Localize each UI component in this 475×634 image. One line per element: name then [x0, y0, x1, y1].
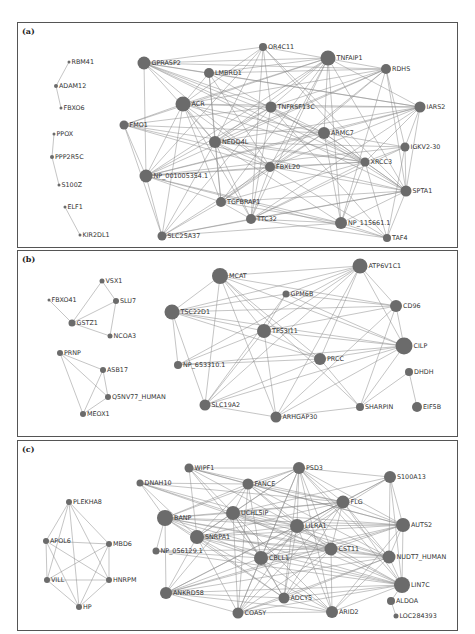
- node-label: FBXL20: [276, 163, 300, 171]
- node-circle: [415, 102, 426, 113]
- node-circle: [293, 462, 305, 474]
- node-np-001005354-1: NP_001005354.1: [140, 170, 209, 183]
- node-label: SLC25A37: [168, 232, 201, 240]
- edge: [146, 176, 387, 238]
- edges: [49, 266, 417, 417]
- node-circle: [165, 305, 180, 320]
- node-circle: [246, 214, 256, 224]
- node-label: S100A13: [397, 473, 426, 481]
- node-label: FBXO6: [64, 104, 85, 112]
- node-circle: [259, 43, 267, 51]
- node-spta1: SPTA1: [401, 186, 433, 197]
- node-label: SLC19A2: [212, 401, 241, 409]
- node-label: SHARPIN: [365, 403, 393, 411]
- node-uchl5ip: UCHL5IP: [226, 506, 268, 520]
- node-label: S100Z: [62, 181, 83, 189]
- node-circle: [100, 279, 105, 284]
- node-circle: [64, 206, 67, 209]
- node-label: ANKRD58: [173, 589, 204, 597]
- node-ppp2r5c: PPP2R5C: [50, 153, 84, 161]
- node-label: IGKV2-30: [411, 143, 441, 151]
- node-label: GPM6B: [291, 290, 314, 298]
- node-circle: [200, 400, 211, 411]
- node-circle: [314, 353, 326, 365]
- node-circle: [233, 608, 244, 619]
- node-flg: FLG: [337, 496, 363, 509]
- node-eif5b: EIF5B: [412, 402, 441, 412]
- node-adam12: ADAM12: [54, 82, 86, 90]
- node-psd3: PSD3: [293, 462, 323, 474]
- panel-b: (b)VSX1FBXO41SLU7GSTZ1NCOA3PRNPASB17Q5NV…: [17, 250, 458, 437]
- edge: [52, 134, 54, 157]
- node-label: NUDT7_HUMAN: [397, 553, 447, 561]
- node-gstz1: GSTZ1: [69, 319, 98, 327]
- node-label: CBLL1: [269, 554, 289, 562]
- node-nedd4l: NEDD4L: [209, 136, 249, 148]
- node-circle: [394, 614, 399, 619]
- node-mcat: MCAT: [212, 268, 247, 284]
- node-label: TGFBRAP1: [226, 198, 260, 206]
- node-label: EIF5B: [423, 403, 441, 411]
- node-circle: [140, 170, 153, 183]
- node-circle: [335, 217, 347, 229]
- edge: [320, 359, 360, 407]
- node-circle: [176, 97, 191, 112]
- node-label: HP: [83, 603, 92, 611]
- node-loc284393: LOC284393: [394, 612, 437, 620]
- node-circle: [113, 298, 119, 304]
- edge: [221, 167, 270, 202]
- node-circle: [279, 593, 290, 604]
- node-circle: [387, 597, 395, 605]
- node-label: FBXO41: [52, 296, 77, 304]
- node-label: ADAM12: [59, 82, 86, 90]
- node-circle: [321, 51, 336, 66]
- node-circle: [361, 158, 370, 167]
- node-label: COASY: [245, 609, 267, 617]
- edge: [386, 69, 405, 147]
- node-label: DHDH: [414, 368, 434, 376]
- node-atp6v1c1: ATP6V1C1: [353, 259, 402, 274]
- node-lmbrd1: LMBRD1: [204, 68, 242, 78]
- node-label: VILL: [51, 576, 65, 584]
- node-label: TSC22D1: [180, 308, 211, 316]
- node-circle: [271, 412, 282, 423]
- node-prnp: PRNP: [57, 349, 81, 357]
- node-dhdh: DHDH: [405, 368, 434, 376]
- node-circle: [405, 368, 413, 376]
- node-kir2dl1: KIR2DL1: [79, 231, 110, 239]
- node-circle: [53, 133, 56, 136]
- node-circle: [100, 367, 106, 373]
- node-circle: [160, 587, 172, 599]
- node-circle: [204, 68, 214, 78]
- node-mbd6: MBD6: [106, 540, 132, 548]
- node-label: RDHS: [392, 65, 410, 73]
- edge: [69, 502, 109, 580]
- edge: [365, 107, 420, 162]
- node-slc19a2: SLC19A2: [200, 400, 241, 411]
- node-tp53i11: TP53I11: [257, 324, 298, 338]
- node-rbm41: RBM41: [68, 58, 94, 66]
- node-label: KIR2DL1: [83, 231, 110, 239]
- node-aldoa: ALDOA: [387, 597, 419, 605]
- node-gpm6b: GPM6B: [283, 290, 314, 298]
- node-auts2: AUTS2: [396, 518, 432, 532]
- node-arid2: ARID2: [326, 606, 359, 618]
- edge: [46, 541, 79, 607]
- edge: [144, 63, 146, 176]
- node-ncoa3: NCOA3: [108, 332, 137, 340]
- node-label: SLU7: [120, 297, 136, 305]
- edge: [389, 477, 390, 557]
- node-nudt7-human: NUDT7_HUMAN: [383, 551, 447, 564]
- edge: [46, 541, 47, 580]
- node-label: ATP6V1C1: [369, 262, 402, 270]
- node-circle: [254, 551, 268, 565]
- edge: [110, 301, 116, 336]
- edge: [165, 518, 166, 593]
- nodes: VSX1FBXO41SLU7GSTZ1NCOA3PRNPASB17Q5NV77_…: [48, 259, 442, 423]
- node-label: GSTZ1: [77, 319, 98, 327]
- node-label: HNRPM: [113, 576, 136, 584]
- node-label: PRCC: [327, 355, 344, 363]
- node-circle: [106, 577, 112, 583]
- node-circle: [157, 510, 173, 526]
- node-label: OR4C11: [268, 43, 294, 51]
